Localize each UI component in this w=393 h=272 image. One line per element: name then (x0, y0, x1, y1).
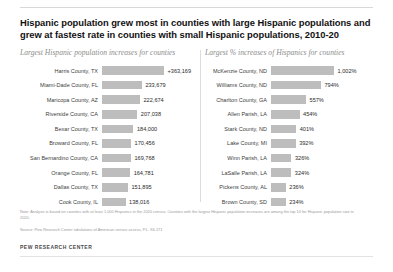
chart-bar (271, 81, 321, 90)
chart-row-label: Brown County, SD (205, 199, 271, 205)
chart-row-label: LaSalle Parish, LA (205, 170, 271, 176)
chart-row-label: Allen Parish, LA (205, 111, 271, 117)
chart-row: San Bernardino County, CA169,768 (20, 151, 200, 166)
chart-bar (102, 183, 128, 192)
chart-bar-wrap: +363,169 (102, 66, 200, 75)
chart-left-title: Largest Hispanic population increases fo… (20, 48, 200, 57)
chart-bar (102, 66, 164, 75)
chart-right-title: Largest % increases of Hispanics for cou… (205, 48, 393, 57)
chart-bar-wrap: 138,016 (102, 198, 200, 207)
chart-bar-wrap: 1,002% (271, 66, 393, 75)
chart-row-label: Winn Parish, LA (205, 155, 271, 161)
chart-bar-wrap: 233,679 (102, 81, 200, 90)
chart-row: LaSalle Parish, LA324% (205, 165, 393, 180)
chart-bar-wrap: 326% (271, 154, 393, 163)
chart-row: Riverside County, CA207,038 (20, 107, 200, 122)
chart-bar (271, 125, 296, 134)
chart-row-value: 392% (299, 140, 313, 146)
chart-row: Cook County, IL138,016 (20, 195, 200, 210)
chart-bar-wrap: 401% (271, 125, 393, 134)
chart-row: Maricopa County, AZ222,674 (20, 92, 200, 107)
chart-row-label: Riverside County, CA (20, 111, 102, 117)
chart-bar-wrap: 164,781 (102, 168, 200, 177)
chart-row: Pickens County, AL236% (205, 180, 393, 195)
chart-row-label: Broward County, FL (20, 140, 102, 146)
chart-bar (271, 168, 291, 177)
chart-bar-wrap: 222,674 (102, 95, 200, 104)
chart-bar (102, 154, 131, 163)
chart-row-value: 222,674 (144, 97, 164, 103)
chart-bar (102, 125, 133, 134)
chart-bar (102, 110, 137, 119)
chart-row-label: Williams County, ND (205, 82, 271, 88)
chart-row: Lake County, MI392% (205, 136, 393, 151)
chart-row-label: Harris County, TX (20, 68, 102, 74)
chart-bar (271, 110, 300, 119)
bottom-divider (20, 256, 373, 257)
chart-row: Orange County, FL164,781 (20, 165, 200, 180)
chart-row-label: Stark County, ND (205, 126, 271, 132)
chart-row-value: 1,002% (338, 68, 357, 74)
chart-bar (271, 66, 334, 75)
chart-bar (271, 139, 296, 148)
chart-row-label: Maricopa County, AZ (20, 97, 102, 103)
page-title: Hispanic population grew most in countie… (20, 17, 375, 42)
chart-row: McKenzie County, ND1,002% (205, 63, 393, 78)
chart-row-label: San Bernardino County, CA (20, 155, 102, 161)
chart-bar-wrap: 794% (271, 81, 393, 90)
chart-row: Charlton County, GA557% (205, 92, 393, 107)
chart-note: Note: Analysis is based on counties with… (20, 209, 363, 220)
chart-row-label: Lake County, MI (205, 140, 271, 146)
chart-row: Allen Parish, LA454% (205, 107, 393, 122)
chart-row-value: 557% (310, 97, 324, 103)
chart-bar-wrap: 234% (271, 198, 393, 207)
chart-bar (102, 81, 142, 90)
chart-row-label: Dallas County, TX (20, 184, 102, 190)
chart-row-label: Charlton County, GA (205, 97, 271, 103)
chart-bar-wrap: 184,000 (102, 125, 200, 134)
chart-bar-wrap: 557% (271, 95, 393, 104)
chart-bar-wrap: 392% (271, 139, 393, 148)
chart-row-value: 236% (289, 184, 303, 190)
chart-row: Dallas County, TX151,895 (20, 180, 200, 195)
chart-row: Miami-Dade County, FL233,679 (20, 78, 200, 93)
chart-bar (102, 168, 130, 177)
infographic-page: Hispanic population grew most in countie… (0, 0, 393, 272)
chart-row-value: 794% (324, 82, 338, 88)
chart-right-rows: McKenzie County, ND1,002%Williams County… (205, 63, 393, 209)
panel-divider (200, 50, 201, 202)
brand-footer: PEW RESEARCH CENTER (20, 244, 92, 250)
chart-bar (271, 154, 291, 163)
chart-panel-percent-increase: Largest % increases of Hispanics for cou… (205, 48, 393, 209)
chart-row-value: 326% (295, 155, 309, 161)
chart-row-value: 454% (303, 111, 317, 117)
chart-bar-wrap: 207,038 (102, 110, 200, 119)
chart-bar (102, 139, 131, 148)
chart-bar-wrap: 236% (271, 183, 393, 192)
chart-row-value: 401% (300, 126, 314, 132)
chart-bar (271, 183, 286, 192)
chart-bar (271, 198, 286, 207)
chart-row-label: Bexar County, TX (20, 126, 102, 132)
chart-row: Bexar County, TX184,000 (20, 122, 200, 137)
chart-left-rows: Harris County, TX+363,169Miami-Dade Coun… (20, 63, 200, 209)
chart-row-value: 170,456 (135, 140, 155, 146)
chart-bar (271, 95, 306, 104)
chart-source: Source: Pew Research Center tabulations … (20, 227, 363, 233)
chart-row: Broward County, FL170,456 (20, 136, 200, 151)
chart-row: Stark County, ND401% (205, 122, 393, 137)
chart-row-label: McKenzie County, ND (205, 68, 271, 74)
chart-panel-population-increase: Largest Hispanic population increases fo… (20, 48, 200, 209)
chart-row: Harris County, TX+363,169 (20, 63, 200, 78)
chart-row-label: Miami-Dade County, FL (20, 82, 102, 88)
chart-row-label: Cook County, IL (20, 199, 102, 205)
chart-row-value: 324% (295, 170, 309, 176)
chart-row-value: 233,679 (145, 82, 165, 88)
chart-bar-wrap: 324% (271, 168, 393, 177)
chart-row-value: 169,768 (134, 155, 154, 161)
chart-row-value: +363,169 (168, 68, 192, 74)
chart-bar (102, 198, 126, 207)
chart-row: Winn Parish, LA326% (205, 151, 393, 166)
top-divider (20, 7, 373, 8)
chart-bar-wrap: 169,768 (102, 154, 200, 163)
